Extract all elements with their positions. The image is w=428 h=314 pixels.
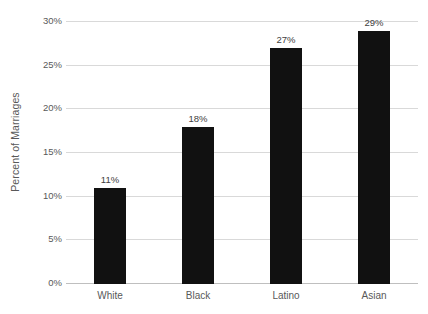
bar-value-label-white: 11% <box>101 175 119 185</box>
x-tick-label-black: Black <box>154 290 242 302</box>
bar-group-white: 11% <box>66 21 154 284</box>
x-tick-label-white: White <box>66 290 154 302</box>
bar-value-label-asian: 29% <box>364 18 383 28</box>
y-tick-label-0: 0% <box>22 278 62 288</box>
bar-value-label-latino: 27% <box>276 35 295 45</box>
bar-group-black: 18% <box>154 21 242 284</box>
y-axis-tick-labels: 0% 5% 10% 15% 20% 25% 30% <box>18 21 62 284</box>
bar-chart: Percent of Marriages 0% 5% 10% 15% 20% 2… <box>0 0 428 314</box>
bar-white[interactable] <box>94 188 126 284</box>
y-tick-label-5: 5% <box>22 235 62 245</box>
bar-group-asian: 29% <box>330 21 418 284</box>
bar-group-latino: 27% <box>242 21 330 284</box>
x-tick-label-asian: Asian <box>330 290 418 302</box>
y-tick-label-10: 10% <box>22 191 62 201</box>
plot-area: 11% 18% 27% 29% <box>66 21 418 284</box>
y-tick-label-20: 20% <box>22 104 62 114</box>
y-tick-label-25: 25% <box>22 60 62 70</box>
bar-asian[interactable] <box>358 31 390 284</box>
x-axis-tick-labels: White Black Latino Asian <box>66 290 418 310</box>
y-tick-label-15: 15% <box>22 147 62 157</box>
y-tick-label-30: 30% <box>22 16 62 26</box>
bar-black[interactable] <box>182 127 214 284</box>
bar-latino[interactable] <box>270 48 302 284</box>
x-tick-label-latino: Latino <box>242 290 330 302</box>
bar-value-label-black: 18% <box>188 114 207 124</box>
